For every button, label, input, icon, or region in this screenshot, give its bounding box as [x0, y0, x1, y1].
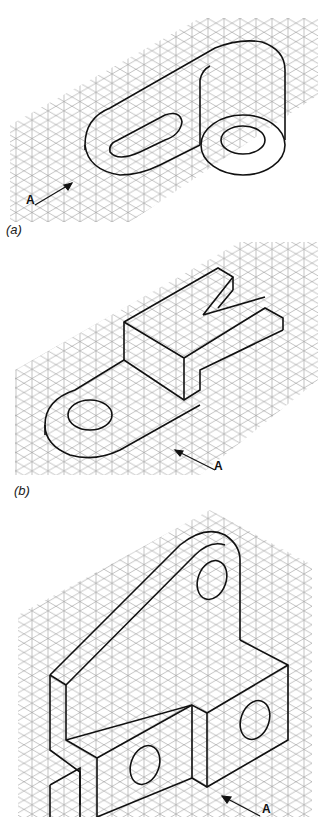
panel-c: A	[0, 500, 325, 817]
isometric-grid-c	[0, 500, 325, 817]
caption-b: (b)	[14, 483, 30, 498]
caption-a: (a)	[6, 222, 22, 237]
isometric-grid-b	[0, 240, 325, 500]
isometric-grid-a	[0, 0, 325, 240]
view-label-a: A	[26, 193, 35, 207]
view-label-b: A	[214, 459, 223, 473]
panel-b: A (b)	[0, 240, 325, 500]
view-label-c: A	[262, 802, 271, 816]
panel-a: A (a)	[0, 0, 325, 240]
